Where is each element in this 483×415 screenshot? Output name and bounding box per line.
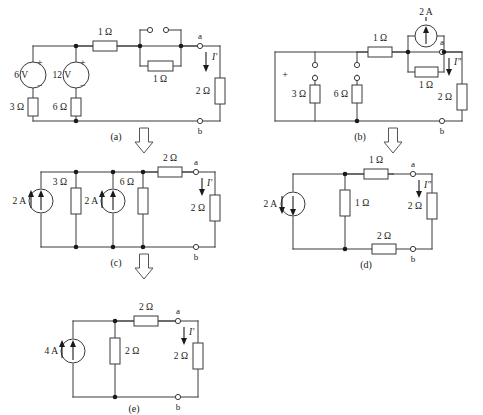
terminal-b-sub-c: b [193,244,198,262]
resistor-2ohm-series-c: 2 Ω [158,153,182,177]
resistor-1ohm-series-d: 1 Ω [364,155,388,179]
terminal-b-label-sub-c: b [194,252,199,262]
resistor-1ohm-parallel-a-label: 1 Ω [153,74,167,84]
source-4a-e: 4 A [45,339,85,363]
resistor-6ohm-a: 6 Ω [53,98,81,116]
source-2a-left-c-label: 2 A [13,196,27,206]
terminal-a-label-sub-a: a [198,31,202,41]
open-switch-a[interactable] [147,27,168,32]
terminal-b-label-sub-d: b [411,254,416,264]
node-dot [74,44,79,49]
current-arrow-b: I″ [446,57,462,76]
node-dot [138,44,143,49]
node-dot [74,245,79,250]
resistor-1ohm-shunt-d-label: 1 Ω [355,198,369,208]
resistor-1ohm-parallel-b-label: 1 Ω [419,80,433,90]
resistor-1ohm-series-a-label: 1 Ω [98,27,112,37]
resistor-6ohm-c-label: 6 Ω [120,177,134,187]
source-6v-plus: + [37,57,43,68]
resistor-2ohm-load-a-label: 2 Ω [196,86,210,96]
resistor-1ohm-series-b: 1 Ω [368,33,392,57]
source-6v: 6 V + − [14,57,46,91]
resistor-2ohm-load-d-label: 2 Ω [408,201,422,211]
resistor-1ohm-parallel-b: 1 Ω [415,67,438,90]
subfigure-b: + 3 Ω 6 Ω 1 Ω 1 Ω 2 A [275,7,467,143]
terminal-b-sub-e: b [175,394,180,412]
resistor-3ohm-c: 3 Ω [53,177,81,214]
open-terminals-6ohm-branch-b [354,62,359,80]
current-label-c: I' [206,178,213,188]
node-dot [113,319,118,324]
source-2a-mid-c-label: 2 A [85,196,99,206]
node-dot [406,50,411,55]
source-2a-b-label: 2 A [419,7,433,17]
node-dot [141,245,146,250]
node-dot [74,170,79,175]
caption-a: (a) [110,131,121,143]
source-2a-d-label: 2 A [264,199,278,209]
node-dot [355,119,360,124]
terminal-b-label-sub-a: b [198,126,203,136]
open-terminals-3ohm-branch-b [312,62,317,80]
source-4a-e-label: 4 A [45,346,59,356]
source-12v-plus: + [80,57,86,68]
source-2a-d: 2 A [264,192,305,216]
flow-arrow-a-to-c [135,128,153,153]
resistor-2ohm-series-e: 2 Ω [134,302,158,326]
subfigure-e: 4 A 2 Ω 2 Ω 2 Ω a b [45,302,203,415]
caption-d: (d) [360,259,372,271]
resistor-2ohm-load-b: 2 Ω [438,84,467,110]
source-2a-mid-c: 2 A [85,189,125,213]
caption-c: (c) [110,257,121,269]
subfigure-c: 2 A 3 Ω 2 A 6 Ω 2 Ω [13,153,220,269]
resistor-6ohm-a-label: 6 Ω [53,102,67,112]
circuit-figure: 6 V + − 12 V + − 3 Ω 6 Ω 1 Ω [0,0,483,415]
node-dot [343,172,348,177]
source-12v-label: 12 V [52,70,71,80]
node-dot [111,245,116,250]
resistor-3ohm-a-label: 3 Ω [10,102,24,112]
resistor-1ohm-shunt-d: 1 Ω [340,190,369,216]
terminal-a-sub-e: a [175,306,180,324]
node-dot [343,247,348,252]
source-6v-minus: − [37,80,43,91]
resistor-2ohm-bottom-d-label: 2 Ω [377,231,391,241]
current-label-e: I' [188,327,195,337]
resistor-2ohm-load-e-label: 2 Ω [174,351,188,361]
terminal-b-sub-a: b [197,118,202,136]
terminal-a-label-sub-c: a [194,157,198,167]
wiring-d [293,174,432,249]
resistor-3ohm-a: 3 Ω [10,98,38,116]
resistor-2ohm-load-d: 2 Ω [408,193,437,219]
node-dot [113,395,118,400]
current-arrow-e: I' [181,327,195,345]
resistor-2ohm-load-a: 2 Ω [196,78,225,104]
source-2a-left-c: 2 A [13,189,53,213]
resistor-2ohm-load-c-label: 2 Ω [191,203,205,213]
terminal-a-label-sub-d: a [411,159,415,169]
resistor-2ohm-shunt-e-label: 2 Ω [125,346,139,356]
terminal-b-sub-d: b [410,246,415,264]
resistor-2ohm-bottom-d: 2 Ω [372,231,396,254]
terminal-a-label-sub-b: a [440,37,444,47]
resistor-6ohm-b: 6 Ω [334,85,362,103]
resistor-1ohm-series-d-label: 1 Ω [369,155,383,165]
resistor-2ohm-series-e-label: 2 Ω [139,302,153,312]
subfigure-a: 6 V + − 12 V + − 3 Ω 6 Ω 1 Ω [10,27,225,143]
resistor-6ohm-b-label: 6 Ω [334,89,348,99]
subfigure-d: 2 A 1 Ω 1 Ω 2 Ω 2 Ω a [264,155,437,271]
resistor-2ohm-series-c-label: 2 Ω [163,153,177,163]
terminal-a-sub-c: a [193,157,198,175]
flow-arrow-b-to-d [384,128,402,153]
terminal-b-label-sub-b: b [440,126,445,136]
terminal-a-sub-a: a [197,31,202,49]
node-dot [442,50,447,55]
source-2a-b: 2 A [415,7,437,47]
node-dot [111,170,116,175]
resistor-1ohm-series-b-label: 1 Ω [373,33,387,43]
resistor-2ohm-shunt-e: 2 Ω [110,338,139,364]
resistor-2ohm-load-e: 2 Ω [174,343,203,369]
source-12v: 12 V + − [52,57,89,91]
current-label-b: I″ [453,57,462,67]
resistor-1ohm-parallel-a: 1 Ω [148,61,173,84]
